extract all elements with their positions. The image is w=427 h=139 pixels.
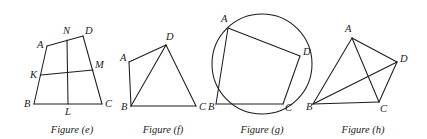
figure-h-vertex-label-C: C bbox=[380, 103, 388, 114]
figure-h-segment-BC bbox=[313, 102, 379, 104]
figure-f-segment-AD bbox=[129, 45, 166, 62]
figure-f-vertex-label-B: B bbox=[121, 101, 128, 112]
figure-e-vertex-label-B: B bbox=[24, 98, 31, 109]
figure-f: ADBCFigure (f) bbox=[119, 31, 207, 136]
figure-e-vertex-label-N: N bbox=[62, 25, 71, 36]
figures-root: ADBCNLKMFigure (e)ADBCFigure (f)ADBCFigu… bbox=[24, 13, 408, 136]
figure-g-segment-AB bbox=[216, 28, 228, 104]
figure-f-segment-BD bbox=[131, 45, 166, 106]
geometry-figure-board: ADBCNLKMFigure (e)ADBCFigure (f)ADBCFigu… bbox=[0, 0, 427, 139]
figure-f-caption: Figure (f) bbox=[142, 124, 184, 136]
figure-h-vertex-label-A: A bbox=[344, 23, 352, 34]
figure-h: ADBCFigure (h) bbox=[306, 23, 408, 136]
figure-f-vertex-label-D: D bbox=[165, 31, 174, 42]
figure-e: ADBCNLKMFigure (e) bbox=[24, 25, 113, 136]
figure-h-segment-AC bbox=[352, 38, 379, 102]
figure-e-vertex-label-A: A bbox=[36, 39, 44, 50]
figure-h-segment-AD bbox=[352, 38, 397, 62]
figure-g-vertex-label-D: D bbox=[302, 46, 311, 57]
figure-e-vertex-label-C: C bbox=[105, 98, 113, 109]
figure-g: ADBCFigure (g) bbox=[208, 13, 312, 136]
figure-e-vertex-label-K: K bbox=[29, 69, 38, 80]
figure-e-vertex-label-D: D bbox=[84, 25, 93, 36]
figure-h-caption: Figure (h) bbox=[340, 124, 385, 136]
figure-e-caption: Figure (e) bbox=[50, 124, 94, 136]
figure-g-segment-DC bbox=[283, 56, 300, 104]
figure-f-vertex-label-A: A bbox=[119, 52, 127, 63]
geometry-figures-svg: ADBCNLKMFigure (e)ADBCFigure (f)ADBCFigu… bbox=[0, 0, 427, 139]
figure-f-segment-AB bbox=[129, 62, 131, 106]
figure-g-vertex-label-A: A bbox=[220, 13, 228, 24]
figure-g-vertex-label-B: B bbox=[208, 101, 215, 112]
figure-f-vertex-label-C: C bbox=[199, 101, 207, 112]
figure-g-segment-AD bbox=[228, 28, 300, 56]
figure-e-segment-AD bbox=[47, 36, 83, 46]
figure-h-segment-DC bbox=[379, 62, 397, 102]
figure-g-caption: Figure (g) bbox=[239, 124, 284, 136]
figure-h-vertex-label-D: D bbox=[399, 53, 408, 64]
figure-e-vertex-label-L: L bbox=[64, 106, 71, 117]
figure-e-vertex-label-M: M bbox=[94, 59, 105, 70]
figure-h-vertex-label-B: B bbox=[306, 101, 313, 112]
figure-f-segment-DC bbox=[166, 45, 196, 106]
figure-g-vertex-label-C: C bbox=[285, 102, 293, 113]
